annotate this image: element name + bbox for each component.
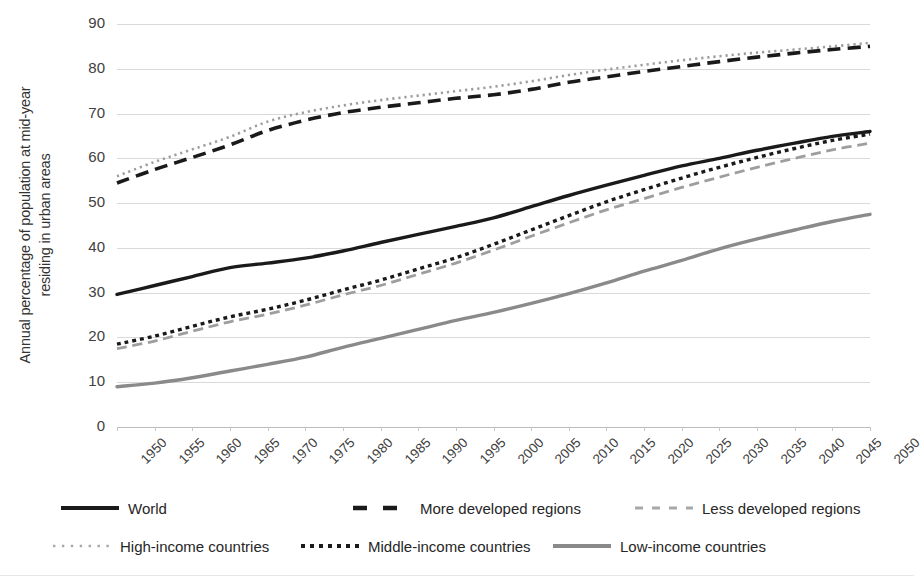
legend-label: Low-income countries xyxy=(620,538,766,555)
x-axis-tick-label: 2035 xyxy=(778,435,810,467)
x-axis-tick-mark xyxy=(569,427,570,431)
y-axis-tick-label: 90 xyxy=(65,14,105,31)
x-axis-tick-mark xyxy=(531,427,532,431)
x-axis-tick-mark xyxy=(870,427,871,431)
x-axis-tick-mark xyxy=(155,427,156,431)
legend-swatch-solid-black xyxy=(60,501,120,515)
x-axis-tick-mark xyxy=(719,427,720,431)
x-axis-tick-label: 1995 xyxy=(477,435,509,467)
y-axis-tick-label: 70 xyxy=(65,104,105,121)
y-axis-title-line-2: residing in urban areas xyxy=(35,87,55,364)
series-line-less-developed-regions xyxy=(117,143,870,349)
x-axis-tick-label: 2015 xyxy=(627,435,659,467)
x-axis-tick-mark xyxy=(117,427,118,431)
x-axis-tick-label: 1990 xyxy=(439,435,471,467)
x-axis-tick-label: 2030 xyxy=(740,435,772,467)
x-axis-tick-mark xyxy=(456,427,457,431)
x-axis-tick-label: 2010 xyxy=(590,435,622,467)
x-axis-tick-mark xyxy=(606,427,607,431)
legend-label: More developed regions xyxy=(420,500,581,517)
x-axis-tick-label: 2005 xyxy=(552,435,584,467)
x-axis-tick-mark xyxy=(230,427,231,431)
x-axis-tick-label: 2050 xyxy=(891,435,923,467)
x-axis-tick-label: 2045 xyxy=(853,435,885,467)
y-axis-tick-label: 10 xyxy=(65,372,105,389)
x-axis-tick-mark xyxy=(343,427,344,431)
y-axis-tick-label: 20 xyxy=(65,327,105,344)
x-axis-tick-mark xyxy=(757,427,758,431)
legend-item-more-developed-regions[interactable]: More developed regions xyxy=(352,500,581,517)
plot-area: 1950195519601965197019751980198519901995… xyxy=(117,24,870,427)
legend-row: WorldMore developed regionsLess develope… xyxy=(22,492,898,524)
x-axis-tick-mark xyxy=(832,427,833,431)
x-axis-tick-mark xyxy=(192,427,193,431)
legend-swatch-dotted-black xyxy=(300,539,360,553)
y-axis-tick-label: 0 xyxy=(65,417,105,434)
y-axis-tick-label: 50 xyxy=(65,193,105,210)
x-axis-tick-label: 2000 xyxy=(514,435,546,467)
chart-legend: WorldMore developed regionsLess develope… xyxy=(22,492,898,566)
x-axis-tick-label: 1980 xyxy=(364,435,396,467)
x-axis-tick-mark xyxy=(381,427,382,431)
legend-item-middle-income-countries[interactable]: Middle-income countries xyxy=(300,538,531,555)
x-axis-tick-label: 2025 xyxy=(703,435,735,467)
legend-item-low-income-countries[interactable]: Low-income countries xyxy=(552,538,766,555)
legend-swatch-dashed-gray xyxy=(634,501,694,515)
x-axis-tick-label: 1975 xyxy=(326,435,358,467)
y-axis-tick-label: 40 xyxy=(65,238,105,255)
x-axis-tick-mark xyxy=(418,427,419,431)
series-line-more-developed-regions xyxy=(117,46,870,183)
x-axis-tick-label: 1955 xyxy=(175,435,207,467)
y-axis-title: Annual percentage of population at mid-y… xyxy=(0,0,70,450)
x-axis-tick-mark xyxy=(644,427,645,431)
bottom-rule xyxy=(0,575,914,576)
legend-label: Middle-income countries xyxy=(368,538,531,555)
y-axis-tick-label: 60 xyxy=(65,148,105,165)
series-line-low-income-countries xyxy=(117,214,870,386)
legend-label: World xyxy=(128,500,167,517)
legend-label: Less developed regions xyxy=(702,500,860,517)
x-axis-tick-mark xyxy=(795,427,796,431)
series-lines xyxy=(117,24,870,427)
x-axis-tick-mark xyxy=(268,427,269,431)
x-axis-tick-label: 1950 xyxy=(138,435,170,467)
legend-item-less-developed-regions[interactable]: Less developed regions xyxy=(634,500,860,517)
legend-item-world[interactable]: World xyxy=(60,500,167,517)
x-axis-tick-mark xyxy=(494,427,495,431)
legend-row: High-income countriesMiddle-income count… xyxy=(22,530,898,562)
legend-swatch-dashed-black xyxy=(352,501,412,515)
x-axis-tick-label: 2040 xyxy=(815,435,847,467)
x-axis-tick-mark xyxy=(305,427,306,431)
legend-item-high-income-countries[interactable]: High-income countries xyxy=(52,538,269,555)
y-axis-title-line-1: Annual percentage of population at mid-y… xyxy=(15,87,35,364)
x-axis-tick-label: 1970 xyxy=(288,435,320,467)
y-axis-tick-label: 80 xyxy=(65,59,105,76)
x-axis-tick-mark xyxy=(682,427,683,431)
legend-swatch-dotted-fine-gray xyxy=(52,539,112,553)
legend-swatch-solid-gray xyxy=(552,539,612,553)
y-axis-tick-label: 30 xyxy=(65,283,105,300)
x-axis-tick-label: 1985 xyxy=(401,435,433,467)
legend-label: High-income countries xyxy=(120,538,269,555)
x-axis-tick-label: 1960 xyxy=(213,435,245,467)
x-axis-tick-label: 2020 xyxy=(665,435,697,467)
x-axis-tick-label: 1965 xyxy=(251,435,283,467)
